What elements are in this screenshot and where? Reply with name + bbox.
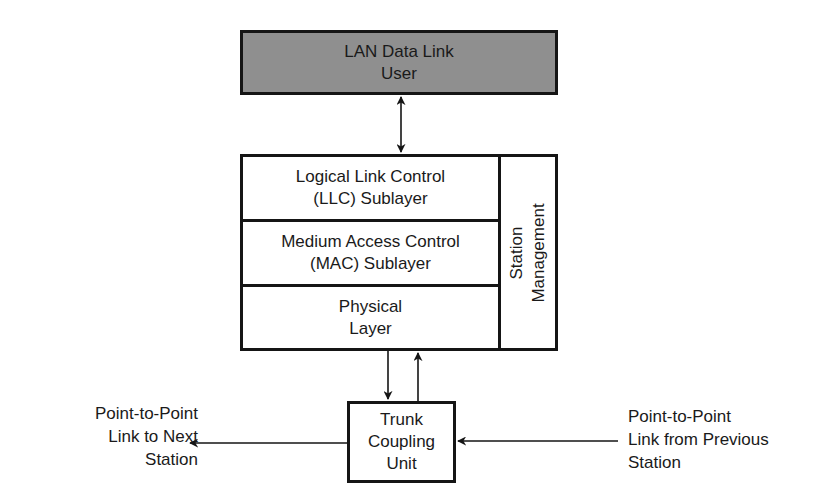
physical-line1: Physical [339,296,402,318]
mac-line2: (MAC) Sublayer [310,253,431,275]
physical-line2: Layer [349,318,392,340]
tcu-line3: Unit [386,453,416,475]
management-line2: Management [528,203,550,302]
tcu-line2: Coupling [368,431,435,453]
lan-data-link-user-box: LAN Data Link User [240,30,558,95]
user-box-line1: LAN Data Link [344,41,454,63]
station-management-column: Station Management [498,157,555,348]
mac-line1: Medium Access Control [281,231,460,253]
llc-line2: (LLC) Sublayer [313,188,427,210]
physical-layer: Physical Layer [243,287,498,348]
left-link-line2: Link to Next [0,425,198,448]
protocol-stack-box: Logical Link Control (LLC) Sublayer Medi… [240,154,558,351]
right-link-line2: Link from Previous [628,428,838,451]
mac-sublayer: Medium Access Control (MAC) Sublayer [243,222,498,287]
left-link-line3: Station [0,448,198,471]
link-from-previous-station-label: Point-to-Point Link from Previous Statio… [628,405,838,474]
llc-line1: Logical Link Control [296,166,445,188]
user-box-line2: User [381,63,417,85]
right-link-line1: Point-to-Point [628,405,838,428]
llc-sublayer: Logical Link Control (LLC) Sublayer [243,157,498,222]
management-line1: Station [506,203,528,302]
trunk-coupling-unit-box: Trunk Coupling Unit [347,401,456,483]
link-to-next-station-label: Point-to-Point Link to Next Station [0,402,198,471]
left-link-line1: Point-to-Point [0,402,198,425]
station-management-label: Station Management [506,203,550,302]
tcu-line1: Trunk [380,409,423,431]
right-link-line3: Station [628,451,838,474]
